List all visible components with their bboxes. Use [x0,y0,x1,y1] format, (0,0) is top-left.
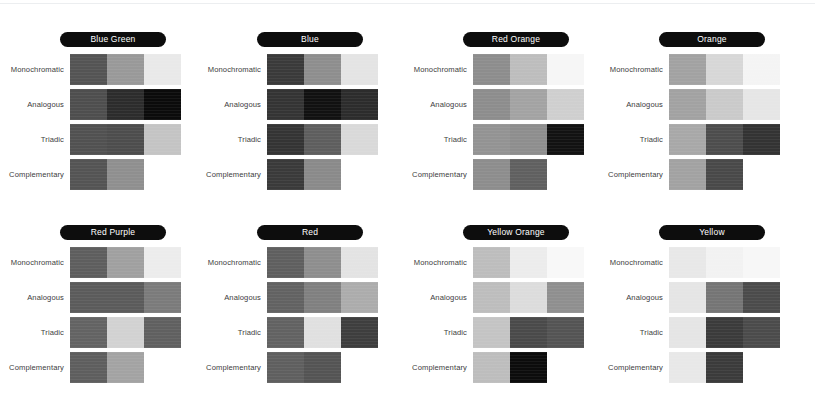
panel-title-badge[interactable]: Red Orange [463,32,569,47]
color-swatch[interactable] [70,352,107,383]
color-swatch[interactable] [743,89,780,120]
panel-title-badge[interactable]: Red [257,225,363,240]
color-swatch[interactable] [304,124,341,155]
color-swatch[interactable] [107,317,144,348]
color-swatch[interactable] [547,282,584,313]
color-swatch[interactable] [669,247,706,278]
panel-title-badge[interactable]: Red Purple [60,225,166,240]
color-swatch[interactable] [341,124,378,155]
color-swatch[interactable] [70,159,107,190]
color-swatch[interactable] [547,89,584,120]
color-swatch[interactable] [267,124,304,155]
color-swatch[interactable] [267,159,304,190]
color-swatch[interactable] [107,247,144,278]
color-swatch[interactable] [473,247,510,278]
color-swatch[interactable] [144,124,181,155]
color-swatch[interactable] [144,317,181,348]
color-swatch[interactable] [669,89,706,120]
color-swatch[interactable] [706,317,743,348]
color-swatch[interactable] [304,89,341,120]
color-swatch[interactable] [706,124,743,155]
color-swatch[interactable] [267,317,304,348]
color-swatch[interactable] [267,54,304,85]
color-swatch[interactable] [706,282,743,313]
swatch-strip [473,282,584,313]
color-swatch[interactable] [473,317,510,348]
panel-title-badge[interactable]: Blue [257,32,363,47]
color-swatch[interactable] [706,159,743,190]
color-swatch[interactable] [267,247,304,278]
color-swatch[interactable] [510,352,547,383]
color-swatch[interactable] [743,282,780,313]
color-swatch[interactable] [706,352,743,383]
color-swatch[interactable] [144,89,181,120]
color-swatch[interactable] [267,89,304,120]
color-swatch[interactable] [341,89,378,120]
color-swatch[interactable] [107,352,144,383]
color-swatch[interactable] [669,124,706,155]
color-swatch[interactable] [547,54,584,85]
color-swatch[interactable] [473,54,510,85]
color-swatch[interactable] [341,282,378,313]
color-swatch[interactable] [743,54,780,85]
color-swatch[interactable] [473,352,510,383]
color-swatch[interactable] [510,247,547,278]
color-swatch[interactable] [473,159,510,190]
color-swatch[interactable] [107,159,144,190]
color-swatch[interactable] [70,124,107,155]
color-swatch[interactable] [70,317,107,348]
color-swatch[interactable] [743,317,780,348]
color-swatch[interactable] [510,54,547,85]
color-swatch[interactable] [304,282,341,313]
color-swatch[interactable] [341,247,378,278]
panel-title-badge[interactable]: Yellow Orange [463,225,569,240]
color-swatch[interactable] [70,54,107,85]
panel-title-badge[interactable]: Orange [659,32,765,47]
color-swatch[interactable] [70,282,107,313]
color-swatch[interactable] [267,282,304,313]
color-swatch[interactable] [547,317,584,348]
color-swatch[interactable] [743,124,780,155]
color-swatch[interactable] [144,247,181,278]
panel-title-badge[interactable]: Blue Green [60,32,166,47]
color-swatch[interactable] [107,282,144,313]
color-swatch[interactable] [107,124,144,155]
color-swatch[interactable] [743,247,780,278]
color-swatch[interactable] [669,54,706,85]
color-swatch[interactable] [669,317,706,348]
color-swatch[interactable] [267,352,304,383]
color-swatch[interactable] [706,89,743,120]
color-swatch[interactable] [669,159,706,190]
color-swatch[interactable] [341,317,378,348]
color-swatch[interactable] [706,247,743,278]
color-swatch[interactable] [304,317,341,348]
color-swatch[interactable] [304,247,341,278]
color-swatch[interactable] [70,89,107,120]
color-swatch[interactable] [304,159,341,190]
scheme-row: Triadic [197,317,378,348]
color-swatch[interactable] [304,54,341,85]
color-swatch[interactable] [341,54,378,85]
color-swatch[interactable] [304,352,341,383]
swatch-strip [70,159,144,190]
color-swatch[interactable] [473,124,510,155]
color-swatch[interactable] [510,282,547,313]
color-swatch[interactable] [669,282,706,313]
color-swatch[interactable] [510,159,547,190]
color-swatch[interactable] [473,89,510,120]
color-swatch[interactable] [473,282,510,313]
color-swatch[interactable] [547,247,584,278]
swatch-strip [473,159,547,190]
color-swatch[interactable] [510,124,547,155]
color-swatch[interactable] [70,247,107,278]
color-swatch[interactable] [107,89,144,120]
color-swatch[interactable] [107,54,144,85]
color-swatch[interactable] [144,282,181,313]
panel-title-badge[interactable]: Yellow [659,225,765,240]
color-swatch[interactable] [547,124,584,155]
color-swatch[interactable] [510,89,547,120]
color-swatch[interactable] [669,352,706,383]
color-swatch[interactable] [706,54,743,85]
color-swatch[interactable] [510,317,547,348]
color-swatch[interactable] [144,54,181,85]
